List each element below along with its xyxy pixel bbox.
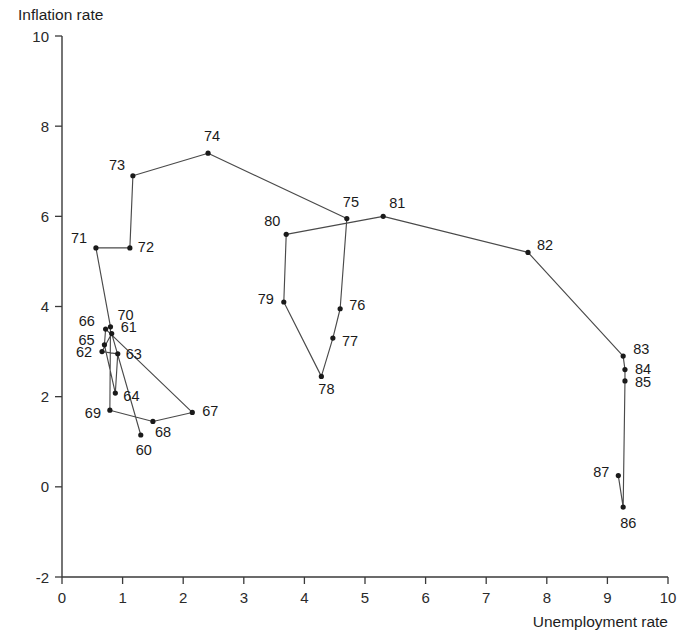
data-point-61 <box>109 331 114 336</box>
point-label-68: 68 <box>155 424 171 440</box>
data-point-68 <box>150 419 155 424</box>
y-tick-label: 10 <box>32 28 49 45</box>
y-axis-ticks: -20246810 <box>32 28 62 586</box>
point-label-64: 64 <box>123 388 139 404</box>
point-label-72: 72 <box>138 239 154 255</box>
point-label-63: 63 <box>126 346 142 362</box>
y-tick-label: 0 <box>41 478 49 495</box>
point-label-67: 67 <box>202 403 218 419</box>
point-label-65: 65 <box>78 332 94 348</box>
y-tick-label: 4 <box>41 298 49 315</box>
data-point-67 <box>190 410 195 415</box>
point-label-80: 80 <box>264 213 280 229</box>
x-tick-label: 7 <box>482 589 490 606</box>
y-tick-label: 8 <box>41 118 49 135</box>
point-label-60: 60 <box>136 442 152 458</box>
y-tick-label: 6 <box>41 208 49 225</box>
point-label-71: 71 <box>71 230 87 246</box>
data-point-77 <box>330 335 335 340</box>
data-point-65 <box>102 342 107 347</box>
x-tick-label: 4 <box>300 589 308 606</box>
x-tick-label: 5 <box>361 589 369 606</box>
x-tick-label: 2 <box>179 589 187 606</box>
data-point-80 <box>284 232 289 237</box>
data-point-85 <box>622 378 627 383</box>
point-label-82: 82 <box>537 237 553 253</box>
data-point-69 <box>107 408 112 413</box>
series-points-group <box>93 151 627 510</box>
data-point-63 <box>115 351 120 356</box>
y-axis-title: Inflation rate <box>18 6 103 23</box>
series-point-labels-group: 6061626364656667686970717273747576777879… <box>71 128 651 531</box>
x-tick-label: 9 <box>603 589 611 606</box>
series-polyline <box>96 153 625 507</box>
data-point-81 <box>381 214 386 219</box>
data-point-70 <box>108 324 113 329</box>
point-label-85: 85 <box>635 374 651 390</box>
x-tick-label: 8 <box>543 589 551 606</box>
x-axis-title: Unemployment rate <box>533 613 668 630</box>
x-tick-label: 3 <box>240 589 248 606</box>
x-axis-ticks: 012345678910 <box>58 577 677 606</box>
chart-canvas: -20246810 012345678910 Inflation rate Un… <box>0 0 682 639</box>
point-label-70: 70 <box>117 307 133 323</box>
data-point-83 <box>621 353 626 358</box>
point-label-69: 69 <box>85 405 101 421</box>
data-point-78 <box>319 374 324 379</box>
data-point-66 <box>103 326 108 331</box>
data-point-71 <box>93 245 98 250</box>
data-point-79 <box>281 299 286 304</box>
point-label-86: 86 <box>620 515 636 531</box>
x-tick-label: 10 <box>660 589 677 606</box>
x-tick-label: 6 <box>421 589 429 606</box>
data-point-84 <box>622 367 627 372</box>
data-point-72 <box>127 245 132 250</box>
point-label-74: 74 <box>204 128 220 144</box>
data-point-87 <box>616 473 621 478</box>
series-polyline-group <box>96 153 625 507</box>
point-label-79: 79 <box>258 291 274 307</box>
x-tick-label: 0 <box>58 589 66 606</box>
data-point-75 <box>344 216 349 221</box>
point-label-77: 77 <box>342 333 358 349</box>
data-point-86 <box>621 505 626 510</box>
x-tick-label: 1 <box>118 589 126 606</box>
point-label-78: 78 <box>318 381 334 397</box>
y-tick-label: 2 <box>41 388 49 405</box>
data-point-76 <box>338 306 343 311</box>
point-label-81: 81 <box>389 195 405 211</box>
point-label-87: 87 <box>593 464 609 480</box>
data-point-64 <box>113 390 118 395</box>
data-point-62 <box>99 349 104 354</box>
point-label-66: 66 <box>79 313 95 329</box>
data-point-82 <box>525 250 530 255</box>
point-label-75: 75 <box>343 194 359 210</box>
data-point-60 <box>138 432 143 437</box>
data-point-73 <box>130 173 135 178</box>
point-label-83: 83 <box>633 341 649 357</box>
phillips-curve-chart: -20246810 012345678910 Inflation rate Un… <box>0 0 682 639</box>
point-label-76: 76 <box>349 297 365 313</box>
y-tick-label: -2 <box>36 569 49 586</box>
data-point-74 <box>205 151 210 156</box>
point-label-73: 73 <box>109 157 125 173</box>
